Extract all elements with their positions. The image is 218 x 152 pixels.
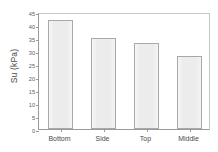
y-axis-tick-mark: [36, 79, 39, 80]
y-axis-tick-mark: [36, 118, 39, 119]
x-axis-tick-mark: [104, 129, 105, 132]
y-axis-tick-label: 45: [5, 9, 35, 19]
y-axis-tick-mark: [36, 131, 39, 132]
y-axis-tick-label: 15: [5, 87, 35, 97]
y-axis-tick-label: 40: [5, 22, 35, 32]
y-axis-tick-mark: [36, 53, 39, 54]
y-axis-tick-mark: [36, 92, 39, 93]
y-axis-tick-mark: [36, 66, 39, 67]
bar: [48, 20, 73, 129]
y-axis-tick-label: 30: [5, 48, 35, 58]
x-axis-tick-mark: [61, 129, 62, 132]
x-axis-tick-mark: [147, 129, 148, 132]
y-axis-tick-label: 10: [5, 100, 35, 110]
bar: [91, 38, 116, 129]
y-axis-tick-mark: [36, 27, 39, 28]
bar: [177, 56, 202, 129]
x-axis-tick-mark: [190, 129, 191, 132]
plot-area: 051015202530354045: [38, 13, 210, 130]
y-axis-tick-mark: [36, 14, 39, 15]
y-axis-tick-mark: [36, 105, 39, 106]
y-axis-tick-label: 25: [5, 61, 35, 71]
y-axis-tick-label: 20: [5, 74, 35, 84]
bar: [134, 43, 159, 129]
y-axis-tick-label: 35: [5, 35, 35, 45]
y-axis-tick-mark: [36, 40, 39, 41]
bar-chart-figure: Su (kPa) 051015202530354045 BottomSideTo…: [0, 0, 217, 152]
x-axis-tick-label: Middle: [159, 133, 218, 144]
y-axis-tick-label: 5: [5, 113, 35, 123]
